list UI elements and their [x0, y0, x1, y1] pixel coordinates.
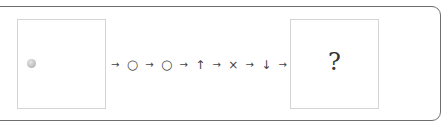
start-panel: [17, 19, 106, 109]
right-arrow-icon: →: [145, 55, 153, 75]
result-panel: ?: [290, 19, 379, 109]
right-arrow-icon: →: [111, 55, 119, 75]
right-arrow-icon: →: [278, 55, 286, 75]
right-arrow-icon: →: [213, 55, 221, 75]
right-arrow-icon: →: [180, 55, 188, 75]
circle-icon: ○: [127, 55, 138, 75]
down-arrow-icon: ↓: [261, 55, 271, 75]
right-arrow-icon: →: [246, 55, 254, 75]
circle-icon: ○: [161, 55, 172, 75]
question-mark: ?: [291, 48, 378, 76]
operation-sequence: → ○ → ○ → ↑ → × → ↓ →: [108, 55, 290, 75]
cross-icon: ×: [228, 55, 238, 75]
up-arrow-icon: ↑: [195, 55, 205, 75]
ball-icon: [27, 59, 36, 68]
